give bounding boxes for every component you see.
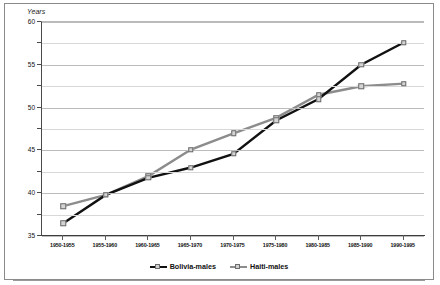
gridline-major (42, 108, 424, 109)
data-point-marker[interactable] (273, 118, 279, 124)
gridline-major (42, 22, 424, 23)
chart-legend: Bolivia-males Haiti-males (5, 262, 433, 271)
data-point-marker[interactable] (103, 192, 109, 198)
y-axis-tick-label: 45 (13, 146, 35, 153)
data-point-marker[interactable] (358, 62, 364, 68)
x-axis-tick-mark (275, 235, 276, 240)
gridline-major (42, 65, 424, 66)
plot-area (41, 21, 424, 235)
gridline-minor (42, 172, 424, 173)
data-point-marker[interactable] (146, 175, 152, 181)
chart-container: Years Bolivia-males Haiti-males 60555045… (4, 3, 434, 280)
x-axis-tick-mark (403, 235, 404, 240)
y-axis-tick-label: 60 (13, 18, 35, 25)
data-point-marker[interactable] (231, 151, 237, 157)
y-axis-tick-mark (37, 21, 41, 22)
x-axis-tick-mark (318, 235, 319, 240)
y-axis-tick-mark (37, 171, 41, 172)
gridline-major (42, 193, 424, 194)
y-axis-tick-mark (37, 214, 41, 215)
x-axis-tick-mark (190, 235, 191, 240)
y-axis-tick-label: 50 (13, 103, 35, 110)
data-point-marker[interactable] (316, 96, 322, 102)
x-axis-tick-label: 1990-1995 (375, 242, 431, 248)
gridline-minor (42, 215, 424, 216)
y-axis-tick-label: 40 (13, 189, 35, 196)
x-axis-tick-mark (233, 235, 234, 240)
data-point-marker[interactable] (358, 83, 364, 89)
x-axis-tick-mark (360, 235, 361, 240)
y-axis-tick-label: 55 (13, 60, 35, 67)
legend-label: Haiti-males (250, 262, 288, 271)
y-axis-tick-label: 35 (13, 232, 35, 239)
y-axis-tick-mark (37, 235, 41, 236)
legend-item-haiti-males[interactable]: Haiti-males (230, 262, 288, 271)
y-axis-tick-mark (37, 107, 41, 108)
legend-label: Bolivia-males (170, 262, 216, 271)
y-axis-tick-mark (37, 192, 41, 193)
data-point-marker[interactable] (188, 165, 194, 171)
legend-swatch-icon (150, 264, 167, 270)
data-point-marker[interactable] (401, 40, 407, 46)
y-axis-title: Years (27, 8, 45, 15)
data-point-marker[interactable] (61, 203, 67, 209)
data-point-marker[interactable] (188, 147, 194, 153)
series-line-haiti-males (63, 84, 403, 206)
y-axis-tick-mark (37, 42, 41, 43)
legend-divider (13, 280, 425, 281)
y-axis-tick-mark (37, 64, 41, 65)
x-axis-tick-mark (62, 235, 63, 240)
gridline-minor (42, 43, 424, 44)
data-point-marker[interactable] (61, 220, 67, 226)
legend-item-bolivia-males[interactable]: Bolivia-males (150, 262, 216, 271)
legend-swatch-icon (230, 264, 247, 270)
data-point-marker[interactable] (231, 131, 237, 137)
gridline-minor (42, 86, 424, 87)
y-axis-tick-mark (37, 85, 41, 86)
y-axis-tick-mark (37, 149, 41, 150)
x-axis-tick-mark (147, 235, 148, 240)
x-axis-tick-mark (105, 235, 106, 240)
y-axis-tick-mark (37, 128, 41, 129)
data-point-marker[interactable] (401, 81, 407, 87)
